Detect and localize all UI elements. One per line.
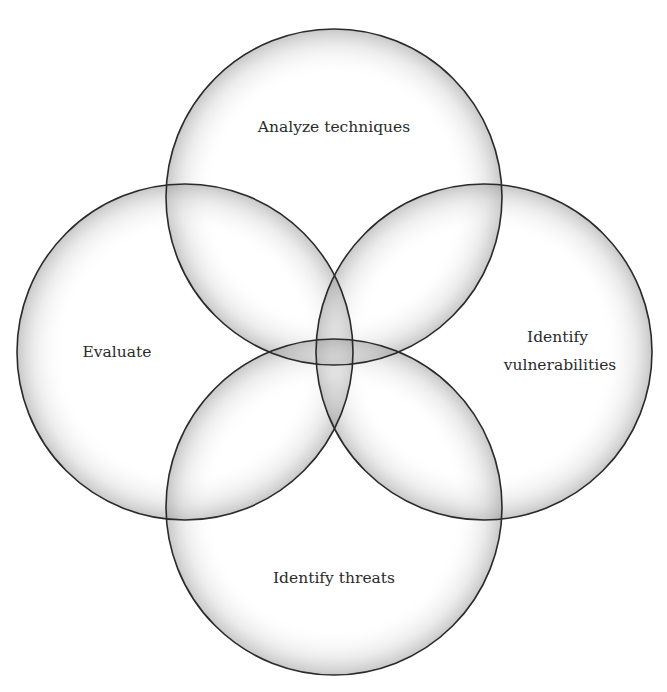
label-identify-vulnerabilities-line-1: Identify <box>527 328 588 346</box>
label-identify-vulnerabilities-line-2: vulnerabilities <box>503 356 617 374</box>
circle-fill-bottom <box>166 339 502 675</box>
label-analyze-techniques: Analyze techniques <box>257 118 410 136</box>
label-evaluate: Evaluate <box>83 343 152 361</box>
venn-diagram: Analyze techniques Evaluate Identify vul… <box>0 0 667 692</box>
label-identify-threats: Identify threats <box>273 569 395 587</box>
